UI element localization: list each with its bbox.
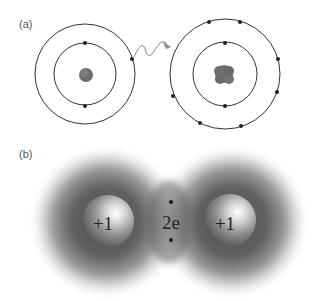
electron-icon [130,57,134,61]
electron-icon [198,121,202,125]
electron-icon [223,104,227,108]
electron-icon [83,41,87,45]
shared-electrons-label: 2e [162,212,180,233]
nucleus-icon [214,65,234,84]
electron-icon [83,104,87,108]
nucleus-texture [80,69,88,77]
right-atom [170,19,280,129]
electron-icon [223,41,227,45]
electron-icon [171,94,175,98]
wavy-arrow-icon [134,42,171,57]
right-nucleus-charge: +1 [215,213,235,234]
electron-icon [275,90,279,94]
shared-electron-icon [169,200,173,204]
left-atom [35,24,135,124]
panel-a: (a) [19,18,280,129]
panel-b: (b) +1 +1 2e [19,146,308,298]
panel-a-label: (a) [19,18,32,30]
diagram-canvas: (a) [0,0,320,301]
electron-icon [238,20,242,24]
electron-icon [207,20,211,24]
shared-electron-icon [169,238,173,242]
panel-b-label: (b) [19,148,32,160]
left-nucleus-charge: +1 [93,213,113,234]
electron-icon [276,57,280,61]
electron-icon [239,124,243,128]
